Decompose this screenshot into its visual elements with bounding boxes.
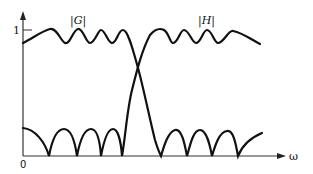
- curve-g-label: |G|: [70, 14, 86, 28]
- curve-h-label: |H|: [198, 14, 215, 28]
- curve-h: [23, 29, 260, 156]
- x-axis-arrow-icon: [277, 153, 286, 159]
- filter-response-diagram: 1 0 ω |G| |H|: [0, 0, 313, 174]
- x-axis-label: ω: [289, 150, 298, 163]
- y-tick-label: 1: [13, 24, 20, 37]
- y-axis-arrow-icon: [20, 11, 26, 20]
- curve-g: [23, 29, 262, 156]
- origin-label: 0: [20, 159, 26, 170]
